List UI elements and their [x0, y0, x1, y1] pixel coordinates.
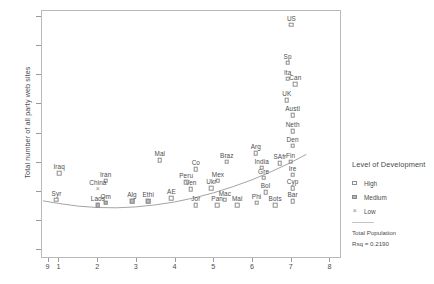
- filled-square-icon: [352, 195, 364, 200]
- data-point-label: Cyp: [287, 177, 299, 184]
- data-point-label: Peru: [179, 172, 193, 179]
- x-tick-label: 7: [281, 262, 301, 271]
- data-point: [194, 167, 199, 172]
- x-tick-label: 2: [87, 262, 107, 271]
- legend-item-label: Medium: [364, 194, 387, 201]
- x-tick-mark: [252, 258, 253, 262]
- data-point-label: Alg: [127, 191, 137, 198]
- data-point: [169, 196, 174, 201]
- data-point-label: Fin: [286, 151, 295, 158]
- data-point-label: Ire: [289, 164, 297, 171]
- x-tick-label: 8: [319, 262, 339, 271]
- data-point: [290, 143, 295, 148]
- data-point: [278, 161, 283, 166]
- x-tick-label: 1: [48, 262, 68, 271]
- open-square-icon: [352, 181, 364, 186]
- legend: Level of Development HighMediumLow Total…: [352, 160, 434, 249]
- legend-item-low[interactable]: Low: [352, 204, 434, 218]
- data-point: [95, 187, 100, 192]
- x-tick-mark: [97, 258, 98, 262]
- data-point: [96, 203, 101, 208]
- x-tick-mark: [213, 258, 214, 262]
- data-point-label: Syr: [52, 189, 62, 196]
- cross-icon: [352, 208, 364, 213]
- data-point: [130, 199, 135, 204]
- fit-curve: [41, 10, 341, 258]
- data-point-label: Braz: [220, 151, 234, 158]
- data-point: [290, 199, 295, 204]
- data-point-label: Austl: [285, 105, 300, 112]
- data-point: [290, 113, 295, 118]
- data-point: [209, 186, 214, 191]
- data-point-label: UK: [282, 90, 291, 97]
- data-point-label: Ethi: [143, 191, 154, 198]
- data-point: [293, 82, 298, 87]
- data-point: [285, 60, 290, 65]
- data-point: [254, 200, 259, 205]
- data-point-label: Pan: [211, 195, 223, 202]
- data-point: [103, 200, 108, 205]
- x-tick-mark: [175, 258, 176, 262]
- data-point: [254, 151, 259, 156]
- data-point-label: Neth: [286, 121, 300, 128]
- data-point-label: Om: [100, 192, 111, 199]
- x-tick-mark: [329, 258, 330, 262]
- data-point: [290, 129, 295, 134]
- data-point-label: US: [287, 14, 296, 21]
- legend-divider: [352, 222, 374, 223]
- data-point-label: AE: [167, 188, 176, 195]
- x-tick-mark: [58, 258, 59, 262]
- data-point-label: Jor: [191, 195, 200, 202]
- chart-canvas: Total number of all party web sites -100…: [0, 0, 434, 284]
- data-point: [215, 203, 220, 208]
- data-point: [146, 199, 151, 204]
- data-point-label: Iran: [100, 170, 111, 177]
- legend-fit-label: Total Population: [352, 227, 434, 238]
- data-point: [225, 159, 230, 164]
- data-point-label: SAfr: [273, 153, 286, 160]
- data-point-label: Sp: [284, 52, 292, 59]
- data-point: [57, 171, 62, 176]
- data-point-label: Ukr: [206, 177, 216, 184]
- data-point: [158, 158, 163, 163]
- data-point: [194, 203, 199, 208]
- y-axis-label: Total number of all party web sites: [23, 38, 32, 208]
- legend-title: Level of Development: [352, 160, 434, 169]
- data-point: [290, 186, 295, 191]
- data-point-label: Mal: [155, 150, 166, 157]
- legend-item-high[interactable]: High: [352, 176, 434, 190]
- legend-item-label: High: [364, 180, 377, 187]
- x-tick-mark: [291, 258, 292, 262]
- data-point-label: Mal: [232, 195, 243, 202]
- x-tick-mark: [136, 258, 137, 262]
- data-point-label: Arg: [251, 142, 261, 149]
- data-point: [289, 22, 294, 27]
- data-point-label: Bots: [269, 195, 282, 202]
- data-point-label: Bar: [287, 191, 297, 198]
- data-point: [263, 190, 268, 195]
- data-point: [54, 197, 59, 202]
- x-tick-label: 4: [165, 262, 185, 271]
- data-point-label: India: [254, 157, 268, 164]
- data-point: [273, 203, 278, 208]
- legend-item-medium[interactable]: Medium: [352, 190, 434, 204]
- x-tick-label: 6: [242, 262, 262, 271]
- x-tick-label: 3: [126, 262, 146, 271]
- data-point-label: Bol: [261, 182, 271, 189]
- x-tick-label: 5: [203, 262, 223, 271]
- data-point-label: Den: [287, 135, 299, 142]
- data-point: [189, 187, 194, 192]
- data-point-label: Phi: [252, 192, 262, 199]
- data-point: [184, 180, 189, 185]
- data-point-label: China: [89, 179, 106, 186]
- data-point: [261, 175, 266, 180]
- legend-item-label: Low: [364, 208, 376, 215]
- data-point: [290, 173, 295, 178]
- data-point-label: Co: [192, 159, 200, 166]
- data-point-label: Iraq: [53, 163, 64, 170]
- data-point-label: Can: [289, 74, 301, 81]
- data-point-label: Mex: [212, 170, 224, 177]
- data-point: [235, 203, 240, 208]
- data-point: [288, 159, 293, 164]
- data-point: [259, 165, 264, 170]
